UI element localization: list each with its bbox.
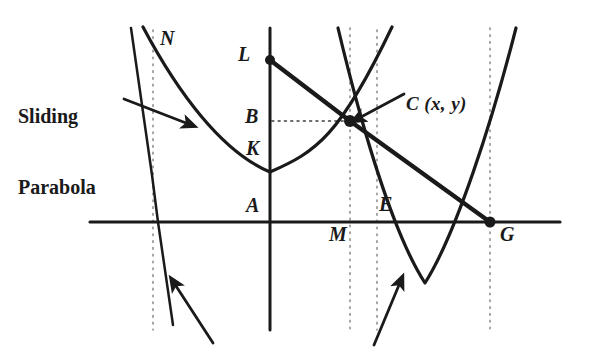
label-a: A — [246, 195, 259, 216]
label-point-c: C (x, y) — [406, 94, 467, 114]
bottom-right-arrow — [374, 285, 399, 345]
point-c-callout-arrow — [361, 94, 404, 117]
label-g: G — [500, 224, 514, 245]
bottom-left-arrow — [176, 286, 213, 343]
sliding-parabola-callout-line2: Parabola — [18, 176, 96, 200]
point-marker-l — [265, 55, 275, 65]
sliding-parabola — [338, 28, 516, 283]
label-e: E — [379, 194, 392, 215]
steep-line-n — [131, 28, 173, 325]
label-n: N — [160, 28, 174, 49]
label-b: B — [245, 106, 258, 127]
sliding-parabola-callout: Sliding Parabola — [18, 58, 96, 247]
sliding-parabola-callout-line1: Sliding — [18, 105, 96, 129]
label-l: L — [238, 44, 250, 65]
point-marker-c — [344, 115, 356, 127]
sliding-parabola-callout-arrow — [124, 99, 186, 123]
label-k: K — [246, 138, 259, 159]
point-marker-g — [485, 217, 496, 228]
dotted-guide-lines — [153, 28, 490, 330]
label-m: M — [329, 224, 347, 245]
sliding-parabola-figure: Sliding Parabola N L B K A E M G C (x, y… — [0, 0, 592, 358]
